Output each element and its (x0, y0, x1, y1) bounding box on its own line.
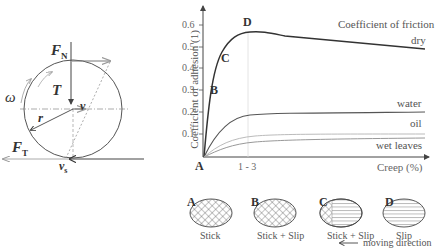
moving-direction-label: moving direction (363, 238, 432, 248)
y-ticks (199, 25, 203, 134)
x-axis-label: Creep (%) (377, 162, 423, 173)
omega-arrow (21, 79, 31, 103)
xtick-creep: 1 - 3 (238, 162, 256, 172)
patch-b-caption: Stick + Slip (257, 231, 304, 241)
ytick-0.4: 0.4 (182, 63, 195, 73)
radius-label: r (38, 111, 43, 124)
ytick-0.1: 0.1 (182, 129, 195, 139)
patch-stick (190, 199, 232, 227)
patch-d-letter: D (385, 196, 394, 208)
series-label-dry: dry (411, 35, 426, 46)
patch-b-letter: B (251, 196, 259, 208)
omega-label: ω (5, 90, 16, 105)
patch-c-letter: C (319, 196, 328, 208)
point-b-label: B (210, 84, 218, 96)
velocity-distribution-line (66, 62, 110, 158)
ytick-0.2: 0.2 (182, 107, 195, 117)
series-label-wet-leaves: wet leaves (376, 140, 422, 151)
point-a-label: A (195, 160, 204, 172)
patch-a-caption: Stick (200, 231, 221, 241)
legend-title: Coefficient of friction (338, 19, 434, 30)
velocity-label: v (80, 100, 85, 112)
ytick-0.3: 0.3 (182, 85, 195, 95)
series-label-water: water (397, 98, 421, 109)
patch-a-letter: A (187, 196, 196, 208)
normal-force-label: FN (51, 43, 68, 61)
series-label-oil: oil (410, 118, 422, 129)
point-d-label: D (243, 16, 252, 28)
ytick-0.5: 0.5 (182, 42, 195, 52)
ytick-0.6: 0.6 (182, 20, 195, 30)
torque-label: T (52, 83, 61, 98)
point-c-label: C (221, 52, 230, 64)
patch-stick-slip-b (254, 199, 296, 227)
diagram-canvas (0, 0, 438, 250)
traction-force-label: FT (12, 140, 28, 158)
slip-velocity-label: vs (59, 160, 67, 175)
rotation-arrow (38, 72, 52, 87)
